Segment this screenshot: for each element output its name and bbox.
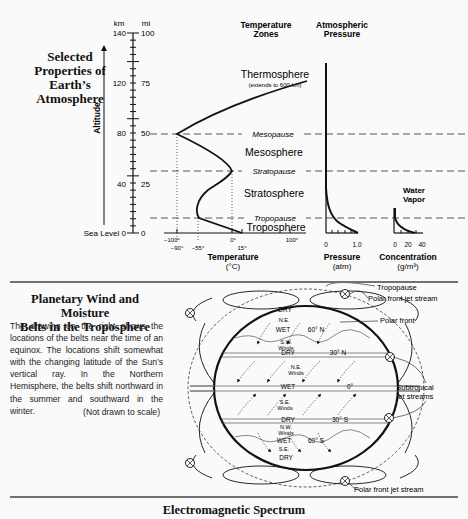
pressure-tick-1: 1.0 bbox=[352, 241, 361, 248]
mesosphere-label: Mesosphere bbox=[245, 146, 303, 158]
temp-tick-15: 15° bbox=[237, 245, 247, 251]
concentration-unit: (g/m³) bbox=[397, 262, 419, 271]
belt-dry-top: DRY bbox=[278, 306, 292, 313]
polar-jet-callout-bottom: Polar front jet stream bbox=[354, 485, 424, 494]
km-tick-140: 140 bbox=[113, 29, 127, 38]
stratosphere-label: Stratosphere bbox=[244, 187, 304, 199]
troposphere-label: Troposphere bbox=[246, 221, 305, 233]
altitude-label: Altitude bbox=[92, 102, 102, 134]
lat-60s: 60° S bbox=[308, 437, 325, 444]
belt-wet-eq: WET bbox=[281, 383, 295, 390]
subtropical-callout: Subtropical bbox=[396, 383, 434, 392]
polar-front-callout: Polar front bbox=[380, 316, 416, 325]
mi-tick-25: 25 bbox=[141, 180, 150, 189]
lat-30s: 30° S bbox=[332, 416, 349, 423]
pressure-header-2: Pressure bbox=[324, 29, 361, 39]
temperature-unit: (°C) bbox=[226, 262, 241, 271]
thermosphere-label: Thermosphere bbox=[241, 68, 309, 80]
pressure-unit: (atm) bbox=[333, 262, 352, 271]
belt-dry-bottom: DRY bbox=[279, 454, 293, 461]
pressure-curve bbox=[326, 63, 358, 233]
vapor-tick-20: 20 bbox=[404, 241, 412, 248]
mi-label: mi bbox=[142, 19, 151, 28]
temp-tick-minus100: −100° bbox=[164, 237, 181, 243]
temp-tick-minus90: −90° bbox=[171, 245, 184, 251]
belt-dry-30n: DRY bbox=[281, 349, 295, 356]
mi-tick-50: 50 bbox=[141, 129, 150, 138]
belt-se-bottom: S.E. bbox=[279, 446, 290, 452]
electromagnetic-spectrum-title: Electromagnetic Spectrum bbox=[0, 503, 468, 518]
lat-30n: 30° N bbox=[330, 349, 347, 356]
tropopause-callout: Tropopause bbox=[377, 283, 417, 292]
atmosphere-chart: Altitude km mi 140 120 80 40 Sea Level 0… bbox=[0, 0, 468, 290]
km-tick-120: 120 bbox=[113, 79, 127, 88]
mi-tick-0: 0 bbox=[141, 229, 146, 238]
stratopause-label: Stratopause bbox=[252, 167, 296, 176]
pressure-tick-0: 0 bbox=[324, 241, 328, 248]
subtropical-callout-2: jet streams bbox=[396, 392, 434, 401]
lat-0: 0° bbox=[347, 383, 354, 390]
planetary-belts-diagram: Tropopause Polar front jet stream Polar … bbox=[0, 283, 468, 498]
tropopause-leader bbox=[326, 283, 375, 286]
mesopause-label: Mesopause bbox=[252, 130, 294, 139]
temp-tick-0: 0° bbox=[230, 237, 236, 243]
nw-winds-2: Winds bbox=[278, 430, 294, 436]
lat-60n: 60° N bbox=[308, 326, 325, 333]
temp-tick-100: 100° bbox=[286, 237, 299, 243]
se-winds-2: Winds bbox=[277, 405, 293, 411]
concentration-label: Concentration bbox=[379, 252, 437, 262]
belt-wet-60n: WET bbox=[276, 326, 290, 333]
ne-winds-2: Winds bbox=[288, 370, 304, 376]
belt-ne-top: N.E. bbox=[279, 317, 290, 323]
water-vapor-curve bbox=[395, 208, 415, 233]
vapor-tick-0: 0 bbox=[393, 241, 397, 248]
mi-tick-75: 75 bbox=[141, 79, 150, 88]
km-tick-80: 80 bbox=[117, 129, 126, 138]
km-label: km bbox=[114, 19, 125, 28]
mi-tick-100: 100 bbox=[141, 29, 155, 38]
belt-dry-30s: DRY bbox=[281, 416, 295, 423]
temperature-axis-label: Temperature bbox=[208, 252, 259, 262]
belt-wet-60s: WET bbox=[277, 437, 291, 444]
pressure-axis-label: Pressure bbox=[324, 252, 361, 262]
water-vapor-header-2: Vapor bbox=[403, 195, 425, 204]
temperature-zones-header-2: Zones bbox=[253, 29, 278, 39]
polar-jet-callout-top: Polar front jet stream bbox=[368, 294, 438, 303]
km-tick-40: 40 bbox=[117, 180, 126, 189]
km-tick-0: Sea Level 0 bbox=[84, 229, 127, 238]
temp-tick-minus55: −55° bbox=[192, 245, 205, 251]
water-vapor-header: Water bbox=[403, 186, 425, 195]
vapor-tick-40: 40 bbox=[418, 241, 426, 248]
earth-globe bbox=[214, 306, 398, 470]
